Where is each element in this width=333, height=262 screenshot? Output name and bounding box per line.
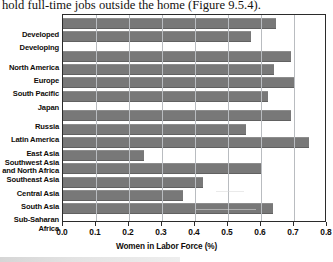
gridline-0.3 <box>162 15 163 221</box>
bar-row <box>63 124 325 135</box>
bar-row <box>63 51 325 62</box>
bar-southwest-asia-and-north-africa <box>63 150 144 161</box>
bar-central-asia <box>63 177 203 188</box>
gridline-0.2 <box>129 15 130 221</box>
gridline-0.5 <box>228 15 229 221</box>
gridline-0.1 <box>96 15 97 221</box>
x-tick-0.5 <box>227 222 228 226</box>
category-label-latin-america: Latin America <box>0 136 59 144</box>
bar-europe <box>63 64 274 75</box>
gridline-0.6 <box>261 15 262 221</box>
category-label-southwest-asia-and-north-africa: Southwest Asia and North Africa <box>0 159 59 176</box>
bar-east-asia <box>63 137 309 148</box>
bar-row <box>63 150 325 161</box>
x-tick-0.0 <box>62 222 63 226</box>
x-axis-title: Women in Labor Force (%) <box>0 242 333 251</box>
x-tick-label-0.8: 0.8 <box>320 227 331 237</box>
body-paragraph-text: hold full-time jobs outside the home (Fi… <box>2 0 333 12</box>
bar-developing <box>63 31 251 42</box>
plot-area <box>62 14 326 222</box>
bar-row <box>63 64 325 75</box>
x-tick-label-0.2: 0.2 <box>122 227 133 237</box>
category-label-japan: Japan <box>0 104 59 112</box>
category-label-russia: Russia <box>0 123 59 131</box>
bar-row <box>63 77 325 88</box>
category-label-south-pacific: South Pacific <box>0 90 59 98</box>
bar-row <box>63 31 325 42</box>
x-tick-label-0.7: 0.7 <box>287 227 298 237</box>
x-tick-0.4 <box>194 222 195 226</box>
category-label-developing: Developing <box>0 44 59 52</box>
bar-chart-figure: DevelopedDevelopingNorth AmericaEuropeSo… <box>0 13 333 261</box>
x-tick-label-0.3: 0.3 <box>155 227 166 237</box>
category-label-sub-saharan-africa: Sub-Saharan Africa <box>0 216 59 233</box>
x-tick-label-0.4: 0.4 <box>188 227 199 237</box>
gridline-0.4 <box>195 15 196 221</box>
bar-south-asia <box>63 190 183 201</box>
bar-developed <box>63 18 276 29</box>
bar-latin-america <box>63 124 246 135</box>
category-label-southeast-asia: Southeast Asia <box>0 176 59 184</box>
x-tick-0.7 <box>293 222 294 226</box>
bar-row <box>63 137 325 148</box>
category-label-east-asia: East Asia <box>0 150 59 158</box>
bar-row <box>63 110 325 121</box>
x-tick-0.1 <box>95 222 96 226</box>
category-label-europe: Europe <box>0 77 59 85</box>
category-label-central-asia: Central Asia <box>0 190 59 198</box>
bar-japan <box>63 91 268 102</box>
x-tick-0.3 <box>161 222 162 226</box>
bar-row <box>63 91 325 102</box>
bar-row <box>63 18 325 29</box>
category-label-south-asia: South Asia <box>0 203 59 211</box>
bar-rows <box>63 15 325 221</box>
category-label-developed: Developed <box>0 31 59 39</box>
bar-sub-saharan-africa <box>63 203 273 214</box>
bar-row <box>63 177 325 188</box>
bar-russia <box>63 110 291 121</box>
x-tick-0.2 <box>128 222 129 226</box>
x-tick-label-0.0: 0.0 <box>56 227 67 237</box>
bar-row <box>63 203 325 214</box>
x-tick-0.6 <box>260 222 261 226</box>
x-tick-label-0.1: 0.1 <box>89 227 100 237</box>
gridline-0.7 <box>294 15 295 221</box>
bar-row <box>63 190 325 201</box>
bar-row <box>63 163 325 174</box>
page-edge-artifact <box>0 257 180 262</box>
category-label-north-america: North America <box>0 64 59 72</box>
x-tick-label-0.5: 0.5 <box>221 227 232 237</box>
x-tick-label-0.6: 0.6 <box>254 227 265 237</box>
bar-north-america <box>63 51 291 62</box>
bar-south-pacific <box>63 77 294 88</box>
x-tick-0.8 <box>326 222 327 226</box>
